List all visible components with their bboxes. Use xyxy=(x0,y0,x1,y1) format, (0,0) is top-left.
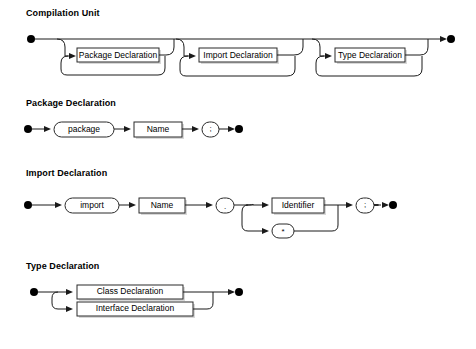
arrow-icon-type xyxy=(325,53,332,59)
start-marker-icon xyxy=(24,201,32,209)
end-marker-icon xyxy=(447,35,455,43)
node-label-type-declaration: Type Declaration xyxy=(338,50,402,60)
end-arrow-icon xyxy=(440,36,447,42)
rail-interface-merge xyxy=(193,292,213,309)
node-label-token-semicolon: ; xyxy=(209,124,211,133)
rail-split-lower xyxy=(52,292,66,309)
end-arrow-icon xyxy=(382,202,389,208)
node-label-token-import: import xyxy=(80,200,104,210)
diagram-import-declaration: import Name . Identifier * xyxy=(0,165,476,255)
section-compilation-unit: Compilation Unit Package Declaration xyxy=(0,0,476,95)
diagram-compilation-unit: Package Declaration Import Declaration T… xyxy=(0,0,476,95)
section-type-declaration: Type Declaration Class Declaration Inter… xyxy=(0,255,476,335)
node-label-interface-declaration: Interface Declaration xyxy=(96,303,175,313)
section-package-declaration: Package Declaration package Name ; xyxy=(0,95,476,157)
node-label-name: Name xyxy=(147,124,170,134)
rail-branch-down-1 xyxy=(57,39,65,56)
node-label-token-package: package xyxy=(68,124,100,134)
end-marker-icon xyxy=(389,201,397,209)
arrow-icon-package xyxy=(69,53,76,59)
rail-out-package xyxy=(159,39,174,55)
arrow-icon-dot xyxy=(206,202,213,208)
arrow-icon-identifier xyxy=(262,202,269,208)
rail-split-upper xyxy=(246,204,262,205)
arrow-icon-name xyxy=(124,126,131,132)
arrow-icon-import-kw xyxy=(55,202,62,208)
arrow-icon-import xyxy=(189,53,196,59)
node-label-package-declaration: Package Declaration xyxy=(79,50,158,60)
arrow-icon-star xyxy=(262,228,269,234)
start-marker-icon xyxy=(30,288,38,296)
arrow-icon-class-declaration xyxy=(66,289,73,295)
arrow-icon-name xyxy=(129,202,136,208)
node-label-class-declaration: Class Declaration xyxy=(97,286,164,296)
node-label-name: Name xyxy=(151,200,174,210)
start-marker-icon xyxy=(27,35,35,43)
section-import-declaration: Import Declaration import Name . xyxy=(0,165,476,255)
arrow-icon-package-kw xyxy=(44,126,51,132)
rail-branch-down-3 xyxy=(312,39,320,56)
rail-out-import xyxy=(277,39,303,55)
diagram-type-declaration: Class Declaration Interface Declaration xyxy=(0,255,476,335)
node-label-token-dot: . xyxy=(224,202,226,211)
diagram-package-declaration: package Name ; xyxy=(0,95,476,157)
end-arrow-icon xyxy=(228,126,235,132)
arrow-icon-semicolon xyxy=(346,202,353,208)
rail-branch-down-2 xyxy=(176,39,184,56)
syntax-diagram-page: Compilation Unit Package Declaration xyxy=(0,0,476,349)
arrow-icon-interface-declaration xyxy=(66,306,73,312)
end-marker-icon xyxy=(235,288,243,296)
node-label-token-semicolon: ; xyxy=(364,200,366,209)
rail-out-type xyxy=(405,39,428,55)
end-marker-icon xyxy=(235,125,243,133)
end-arrow-icon xyxy=(228,289,235,295)
node-label-identifier: Identifier xyxy=(282,200,315,210)
arrow-icon-semicolon xyxy=(192,126,199,132)
node-label-import-declaration: Import Declaration xyxy=(203,50,273,60)
rail-split-lower xyxy=(242,205,262,231)
start-marker-icon xyxy=(24,125,32,133)
node-label-token-star: * xyxy=(281,227,284,236)
